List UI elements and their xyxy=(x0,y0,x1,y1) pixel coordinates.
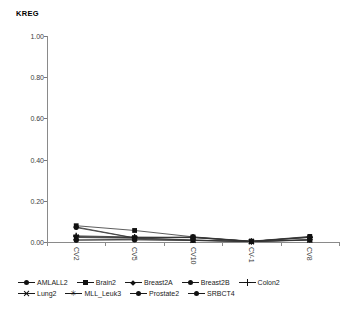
circle-marker-icon xyxy=(24,280,29,285)
legend-swatch xyxy=(239,279,256,286)
chart-legend: AMLALL2Brain2Breast2ABreast2BColon2Lung2… xyxy=(18,277,350,299)
cross-marker-icon xyxy=(23,290,30,297)
circle-marker-icon xyxy=(188,280,193,285)
legend-row: Lung2✳MLL_Leuk3Prostate2SRBCT4 xyxy=(18,288,350,299)
series-point xyxy=(74,238,79,243)
legend-row: AMLALL2Brain2Breast2ABreast2BColon2 xyxy=(18,277,350,288)
square-marker-icon xyxy=(83,280,88,285)
legend-swatch: ✳ xyxy=(65,290,82,297)
plot-series-layer xyxy=(0,0,357,314)
legend-item-colon2[interactable]: Colon2 xyxy=(239,279,280,286)
legend-item-amlall2[interactable]: AMLALL2 xyxy=(18,279,68,286)
legend-swatch xyxy=(188,290,205,297)
series-point xyxy=(132,228,137,233)
legend-item-label: AMLALL2 xyxy=(37,279,68,286)
chart-container: KREG 1.000.800.600.400.200.00 CV2CV5CV10… xyxy=(0,0,357,314)
legend-item-prostate2[interactable]: Prostate2 xyxy=(130,290,179,297)
legend-swatch xyxy=(182,279,199,286)
legend-item-label: Breast2A xyxy=(144,279,173,286)
legend-swatch xyxy=(125,279,142,286)
legend-item-mll_leuk3[interactable]: ✳MLL_Leuk3 xyxy=(65,290,121,297)
legend-swatch xyxy=(18,290,35,297)
series-point xyxy=(74,225,79,230)
diamond-marker-icon xyxy=(131,280,137,286)
series-point xyxy=(307,238,312,243)
legend-item-brain2[interactable]: Brain2 xyxy=(77,279,116,286)
legend-item-label: Prostate2 xyxy=(149,290,179,297)
legend-swatch xyxy=(77,279,94,286)
legend-item-breast2b[interactable]: Breast2B xyxy=(182,279,230,286)
star-marker-icon: ✳ xyxy=(70,290,78,298)
legend-item-label: Lung2 xyxy=(37,290,56,297)
legend-item-breast2a[interactable]: Breast2A xyxy=(125,279,173,286)
series-srbct4 xyxy=(74,237,313,244)
legend-item-label: Brain2 xyxy=(96,279,116,286)
series-point xyxy=(132,237,137,242)
circle-marker-icon xyxy=(194,291,199,296)
legend-item-label: Breast2B xyxy=(201,279,230,286)
plus-marker-icon xyxy=(244,279,251,286)
circle-marker-icon xyxy=(136,291,141,296)
legend-swatch xyxy=(130,290,147,297)
legend-item-label: MLL_Leuk3 xyxy=(84,290,121,297)
legend-swatch xyxy=(18,279,35,286)
legend-item-srbct4[interactable]: SRBCT4 xyxy=(188,290,235,297)
legend-item-label: SRBCT4 xyxy=(207,290,235,297)
series-point xyxy=(191,238,196,243)
series-point xyxy=(249,239,254,244)
legend-item-label: Colon2 xyxy=(258,279,280,286)
legend-item-lung2[interactable]: Lung2 xyxy=(18,290,56,297)
